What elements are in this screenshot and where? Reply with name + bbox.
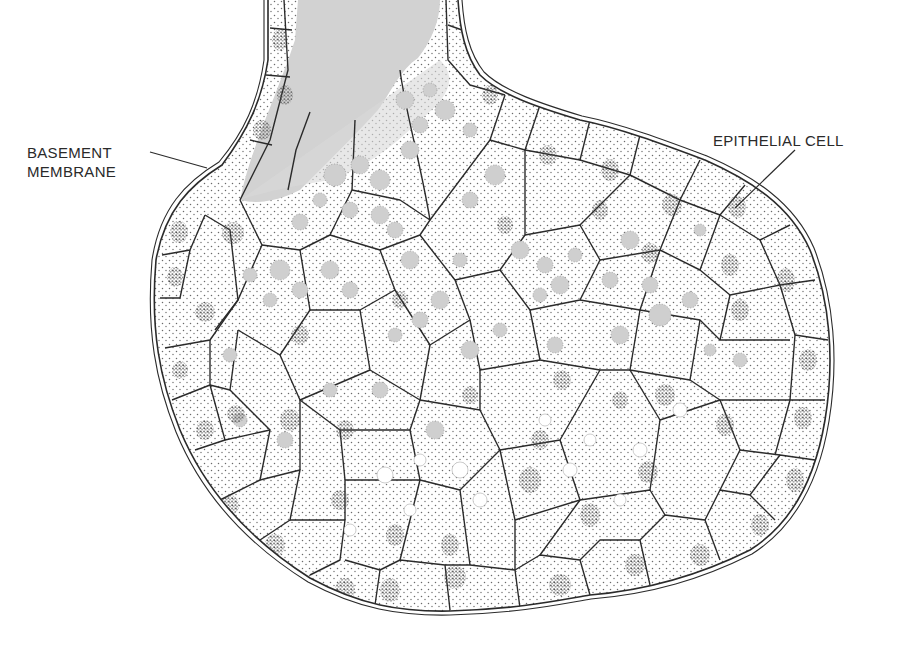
basement-membrane-leader-line [150,152,207,168]
basement-membrane-label: BASEMENT MEMBRANE [27,143,116,181]
epithelial-cell-label: EPITHELIAL CELL [713,131,844,150]
basement-membrane-label-line1: BASEMENT [27,143,116,162]
basement-membrane-label-line2: MEMBRANE [27,162,116,181]
gland-illustration [0,0,915,647]
